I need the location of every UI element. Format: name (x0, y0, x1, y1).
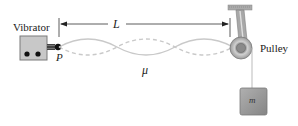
standing-wave-diagram (0, 0, 298, 126)
length-dimension (59, 18, 230, 37)
length-label: L (113, 17, 120, 32)
mass-label: m (249, 95, 256, 105)
point-p-label: P (56, 51, 63, 63)
vibrator-box (20, 36, 55, 60)
pulley-assembly (228, 5, 252, 88)
standing-wave (59, 39, 233, 55)
pulley-label: Pulley (260, 42, 288, 54)
linear-density-label: μ (142, 63, 148, 78)
vibrator-label: Vibrator (13, 21, 50, 33)
